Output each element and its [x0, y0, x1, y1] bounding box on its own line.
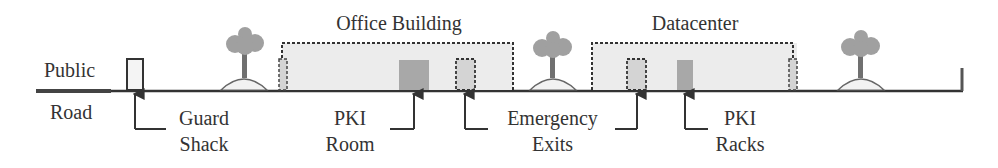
road-label: Road [50, 100, 92, 124]
emergency-exit-door-icon [456, 59, 475, 90]
guard-shack-label-line2: Shack [168, 132, 240, 156]
emergency-exits-label-line2: Exits [515, 132, 590, 156]
callout-arrow-emergency-exit-datacenter [615, 94, 637, 129]
callout-arrow-pki-room [390, 94, 414, 129]
public-label: Public [44, 58, 95, 82]
pki-room-label-line1: PKI [320, 106, 380, 130]
pki-room-icon [399, 60, 429, 90]
callout-arrow-guard-shack [135, 94, 166, 129]
pki-racks-label-line2: Racks [708, 132, 772, 156]
emergency-exits-label-line1: Emergency [495, 106, 610, 130]
facility-diagram: Public Road Office Building Datacenter G… [0, 0, 998, 168]
guard-shack-label-line1: Guard [168, 106, 240, 130]
callout-arrow-emergency-exit-office [465, 94, 488, 129]
pki-room-label-line2: Room [315, 132, 385, 156]
office-building-label: Office Building [319, 11, 479, 35]
pki-racks-icon [677, 60, 693, 90]
diagram-graphic [0, 0, 998, 168]
pki-racks-label-line1: PKI [710, 106, 770, 130]
datacenter-building [592, 43, 797, 90]
emergency-exit-door-icon [627, 59, 646, 90]
callout-arrow-pki-racks [685, 94, 708, 129]
guard-shack-icon [127, 59, 143, 90]
tree-icon [221, 27, 267, 90]
tree-icon [530, 31, 576, 90]
office-building [279, 43, 513, 90]
datacenter-label: Datacenter [630, 11, 760, 35]
tree-icon [838, 30, 884, 90]
